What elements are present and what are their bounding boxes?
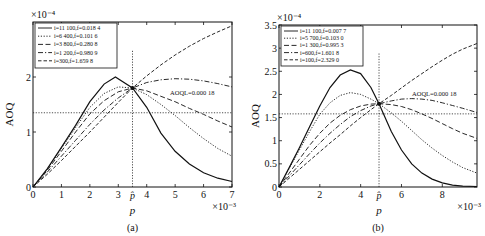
x-tick-label: 0 bbox=[277, 189, 282, 200]
x-tick-label: 8 bbox=[440, 189, 445, 200]
y-tick-label: 0.5 bbox=[265, 158, 278, 169]
y-tick-label: 2 bbox=[26, 72, 31, 83]
aoql-point bbox=[377, 102, 381, 106]
x-tick-label: 1 bbox=[59, 189, 64, 200]
legend-entry-2: i=3 800,f=0.280 8 bbox=[54, 41, 97, 47]
x-tick-label: 4 bbox=[358, 189, 363, 200]
legend: i=11 100,f=0.007 7i=5 700,f=0.103 0i=1 3… bbox=[281, 26, 363, 66]
panel-label: (a) bbox=[127, 222, 138, 234]
x-tick-label: 3 bbox=[116, 189, 121, 200]
aoql-annotation: AOQL=0.000 18 bbox=[412, 90, 456, 97]
legend-entry-0: i=11 100,f=0.018 4 bbox=[54, 25, 100, 31]
legend-entry-3: i=1 200,f=0.980 9 bbox=[54, 50, 97, 56]
legend-entry-1: i=6 400,f=0.101 6 bbox=[54, 33, 97, 39]
y-tick-label: 3 bbox=[272, 43, 277, 54]
series-line-1 bbox=[279, 93, 477, 187]
series-line-2 bbox=[279, 104, 477, 187]
legend: i=11 100,f=0.018 4i=6 400,f=0.101 6i=3 8… bbox=[35, 23, 117, 68]
chart-panel-b: 0246800.511.522.533.5×10⁻⁴×10⁻³AOQpp̂(b)… bbox=[249, 12, 481, 234]
legend-entry-2: i=1 300,f=0.995 3 bbox=[300, 42, 343, 48]
legend-entry-0: i=11 100,f=0.007 7 bbox=[300, 28, 346, 34]
x-tick-label: 7 bbox=[230, 189, 235, 200]
x-axis-label: p bbox=[375, 204, 382, 216]
y-tick-label: 1 bbox=[26, 127, 31, 138]
x-tick-label: 2 bbox=[87, 189, 92, 200]
p-hat-label: p̂ bbox=[376, 190, 382, 201]
y-axis-label: AOQ bbox=[249, 104, 261, 128]
y-tick-label: 3.5 bbox=[265, 20, 278, 31]
x-axis-label: p bbox=[129, 204, 136, 216]
p-hat-label: p̂ bbox=[129, 190, 135, 201]
aoq-figure: 01234567012×10⁻⁴×10⁻³AOQpp̂(a)AOQL=0.000… bbox=[0, 0, 485, 236]
aoql-annotation: AOQL=0.000 18 bbox=[170, 89, 214, 96]
x-multiplier: ×10⁻³ bbox=[457, 201, 481, 212]
y-multiplier: ×10⁻⁴ bbox=[277, 12, 302, 23]
y-tick-label: 2.5 bbox=[265, 66, 278, 77]
series-line-3 bbox=[279, 99, 477, 187]
y-axis-label: AOQ bbox=[3, 103, 15, 127]
legend-entry-3: i=600,f=1.601 8 bbox=[300, 50, 339, 56]
y-tick-label: 1 bbox=[272, 135, 277, 146]
y-tick-label: 0 bbox=[272, 182, 277, 193]
x-tick-label: 6 bbox=[399, 189, 404, 200]
legend-entry-1: i=5 700,f=0.103 0 bbox=[300, 35, 343, 41]
y-multiplier: ×10⁻⁴ bbox=[31, 9, 56, 20]
legend-entry-4: i=300,f=1.659 8 bbox=[54, 58, 93, 64]
panel-label: (b) bbox=[372, 222, 384, 234]
y-tick-label: 1.5 bbox=[265, 112, 278, 123]
figure: 01234567012×10⁻⁴×10⁻³AOQpp̂(a)AOQL=0.000… bbox=[0, 0, 485, 236]
y-tick-label: 2 bbox=[272, 89, 277, 100]
x-tick-label: 5 bbox=[173, 189, 178, 200]
x-tick-label: 0 bbox=[31, 189, 36, 200]
chart-panel-a: 01234567012×10⁻⁴×10⁻³AOQpp̂(a)AOQL=0.000… bbox=[3, 9, 236, 234]
x-tick-label: 6 bbox=[201, 189, 206, 200]
series-line-0 bbox=[279, 70, 477, 187]
x-multiplier: ×10⁻³ bbox=[212, 201, 236, 212]
aoql-point bbox=[131, 86, 135, 90]
x-tick-label: 2 bbox=[317, 189, 322, 200]
y-tick-label: 0 bbox=[26, 182, 31, 193]
x-tick-label: 4 bbox=[144, 189, 149, 200]
legend-entry-4: i=100,f=2.329 0 bbox=[300, 57, 339, 63]
